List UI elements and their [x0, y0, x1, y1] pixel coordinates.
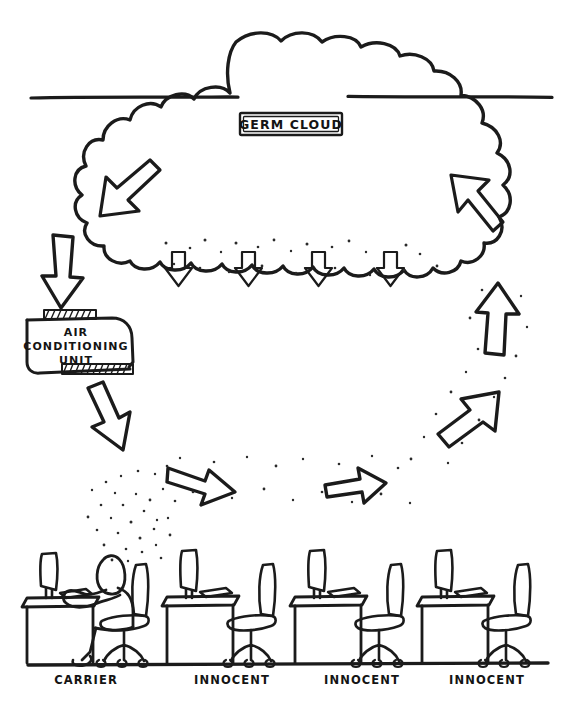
monitor-screen-4: [435, 550, 452, 591]
arrow-cloud-intake-left-icon: [100, 160, 160, 216]
germ-cloud: [75, 33, 510, 277]
desk-top-2: [162, 596, 239, 606]
germ-cloud-label: GERM CLOUD: [239, 113, 343, 135]
chair-base-1: [104, 645, 144, 661]
desk-legs-1: [27, 606, 93, 663]
monitor-screen-2: [180, 550, 197, 591]
monitor-screen-3: [308, 550, 325, 591]
workstation-4: [417, 550, 531, 667]
ac-unit-label-line3: UNIT: [59, 354, 93, 367]
chair-base-2: [231, 645, 271, 661]
chair-seat-4: [482, 615, 530, 630]
desk-legs-3: [295, 605, 361, 663]
chair-base-3: [359, 645, 399, 661]
chair-back-3: [387, 564, 403, 616]
ac-unit-label-line1: AIR: [64, 326, 88, 339]
arrow-floor-spread-left-icon: [167, 468, 235, 505]
desk-top-3: [290, 596, 367, 606]
arrow-rise-diagonal-icon: [438, 392, 499, 447]
arrow-cloud-to-ac-icon: [42, 235, 83, 308]
arrow-floor-spread-right-icon: [325, 468, 386, 503]
germ-particles: [87, 239, 529, 570]
fallout-arrow-4: [377, 252, 404, 286]
germ-cloud-diagram: GERM CLOUD AIR CONDITIONING: [0, 0, 576, 704]
desk-legs-4: [422, 605, 488, 663]
workstation-carrier: [22, 553, 149, 667]
arrow-return-to-cloud-icon: [451, 175, 503, 231]
floor-line: [28, 663, 548, 665]
chair-back-1: [132, 564, 148, 616]
desk-label-innocent-1: INNOCENT: [194, 673, 270, 687]
monitor-screen-1: [40, 553, 57, 590]
desk-top-4: [417, 596, 494, 606]
chair-back-2: [259, 564, 275, 616]
chair-seat-2: [227, 615, 275, 630]
ac-unit-label-line2: CONDITIONING: [23, 340, 129, 353]
diagram-canvas: GERM CLOUD AIR CONDITIONING: [0, 0, 576, 704]
chair-seat-3: [355, 615, 403, 630]
arrow-ac-outflow-icon: [88, 382, 130, 450]
workstation-2: [162, 550, 276, 667]
desk-label-innocent-2: INNOCENT: [324, 673, 400, 687]
desk-labels: CARRIER INNOCENT INNOCENT INNOCENT: [54, 673, 525, 687]
workstation-3: [290, 550, 404, 667]
chair-back-4: [514, 564, 530, 616]
fallout-arrow-3: [305, 252, 332, 286]
air-conditioning-unit: AIR CONDITIONING UNIT: [23, 310, 133, 374]
germ-cloud-label-text: GERM CLOUD: [239, 117, 343, 132]
desk-label-carrier: CARRIER: [54, 673, 118, 687]
arrow-rise-vertical-icon: [476, 283, 519, 355]
chair-base-4: [486, 645, 526, 661]
desk-legs-2: [167, 605, 233, 663]
ac-top-vent: [44, 310, 96, 319]
desk-label-innocent-3: INNOCENT: [449, 673, 525, 687]
